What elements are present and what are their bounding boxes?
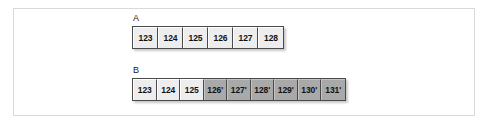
sequence-cell: 126' [204,79,228,100]
figure-frame: A 123124125126127128 B 123124125126'127'… [13,8,475,116]
sequence-cell: 125 [180,79,204,100]
sequence-cell: 124 [157,79,181,100]
sequence-cell: 131' [321,79,345,100]
sequence-cell: 123 [133,27,158,48]
sequence-row-b: B 123124125126'127'128'129'130'131' [132,65,346,101]
sequence-cell: 130' [298,79,322,100]
sequence-row-a: A 123124125126127128 [132,13,284,49]
sequence-cell: 123 [133,79,157,100]
sequence-cell: 124 [158,27,183,48]
sequence-cell: 128 [258,27,283,48]
row-b-label: B [132,65,346,75]
row-b-cell-strip: 123124125126'127'128'129'130'131' [132,78,346,101]
sequence-cell: 127' [227,79,251,100]
sequence-cell: 129' [274,79,298,100]
sequence-cell: 125 [183,27,208,48]
sequence-cell: 126 [208,27,233,48]
sequence-cell: 127 [233,27,258,48]
row-a-cell-strip: 123124125126127128 [132,26,284,49]
row-a-label: A [132,13,284,23]
sequence-cell: 128' [251,79,275,100]
